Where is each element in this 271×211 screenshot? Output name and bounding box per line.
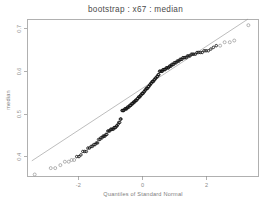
y-tick-label: 0.7 <box>16 25 22 33</box>
data-point <box>247 24 250 27</box>
qq-plot-svg: bootstrap : x67 : median Quantiles of St… <box>0 0 271 211</box>
y-tick-label: 0.6 <box>16 68 22 76</box>
tick-marks <box>24 29 207 180</box>
data-point <box>67 160 70 163</box>
x-tick-label: 2 <box>205 182 208 188</box>
data-point <box>210 48 213 51</box>
x-axis-label: Quantiles of Standard Normal <box>103 191 182 197</box>
reference-line <box>32 19 248 161</box>
data-point <box>54 167 57 170</box>
y-tick-labels: 0.40.50.60.7 <box>16 25 22 161</box>
data-point <box>233 39 236 42</box>
data-point <box>223 41 226 44</box>
data-point <box>120 118 123 121</box>
data-point <box>49 167 52 170</box>
x-tick-label: 0 <box>141 182 144 188</box>
data-point <box>228 41 231 44</box>
data-point <box>63 160 66 163</box>
data-point <box>59 164 62 167</box>
data-point <box>207 50 210 53</box>
data-point <box>219 44 222 47</box>
data-point <box>212 46 215 49</box>
y-axis-label: median <box>5 90 11 110</box>
data-points <box>33 24 250 176</box>
y-tick-label: 0.4 <box>16 153 22 161</box>
x-tick-label: -2 <box>76 182 81 188</box>
data-point <box>33 173 36 176</box>
chart-figure: bootstrap : x67 : median Quantiles of St… <box>0 0 271 211</box>
data-point <box>215 44 218 47</box>
x-tick-labels: -202 <box>76 182 208 188</box>
data-point <box>158 73 161 76</box>
data-point <box>80 154 83 157</box>
chart-title: bootstrap : x67 : median <box>88 5 183 14</box>
y-tick-label: 0.5 <box>16 110 22 118</box>
